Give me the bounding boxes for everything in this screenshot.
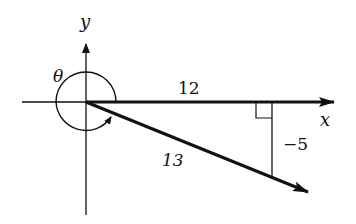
hypotenuse-vector bbox=[86, 102, 308, 192]
opposite-label: −5 bbox=[283, 134, 308, 154]
theta-label: θ bbox=[53, 66, 63, 86]
right-angle-marker bbox=[256, 102, 272, 118]
x-axis-label: x bbox=[320, 109, 330, 130]
hypotenuse-label: 13 bbox=[162, 150, 184, 170]
adjacent-label: 12 bbox=[178, 78, 200, 98]
trig-diagram: y x θ 12 −5 13 bbox=[0, 0, 356, 224]
y-axis-label: y bbox=[79, 11, 91, 32]
